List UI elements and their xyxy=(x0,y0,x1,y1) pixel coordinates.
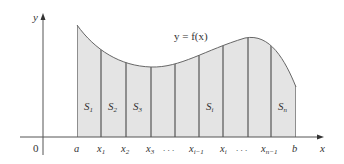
svg-text:x1: x1 xyxy=(96,143,105,156)
origin-label: 0 xyxy=(33,142,39,154)
svg-text:b: b xyxy=(292,143,297,154)
svg-text:. . .: . . . xyxy=(236,143,247,153)
svg-text:xn−1: xn−1 xyxy=(260,143,277,156)
x-axis-label: x xyxy=(319,142,325,154)
tick-labels: a x1 x2 x3 . . . xi−1 xi . . . xn−1 b xyxy=(74,143,297,156)
y-axis-arrow-icon xyxy=(41,13,46,20)
riemann-strips-diagram: y x 0 y = f(x) a x1 x2 x3 . . . xi−1 xi … xyxy=(0,0,344,164)
svg-text:xi−1: xi−1 xyxy=(188,143,204,156)
x-axis-arrow-icon xyxy=(317,135,324,140)
svg-text:xi: xi xyxy=(219,143,227,156)
svg-text:. . .: . . . xyxy=(163,143,174,153)
svg-text:a: a xyxy=(74,143,79,154)
svg-text:x2: x2 xyxy=(120,143,130,156)
svg-text:x3: x3 xyxy=(145,143,155,156)
curve-label: y = f(x) xyxy=(174,30,208,43)
y-axis-label: y xyxy=(32,11,38,23)
